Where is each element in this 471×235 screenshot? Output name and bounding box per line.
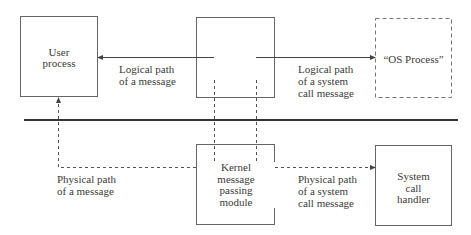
physical-message-path <box>59 98 215 168</box>
os-process-label: “OS Process” <box>375 54 452 65</box>
diagram-canvas: User process “OS Process” Kernel message… <box>0 0 471 235</box>
logical-syscall-label: Logical path of a system call message <box>298 63 354 99</box>
kernel-module-label: Kernel message passing module <box>197 162 275 208</box>
user-process-label: User process <box>20 47 98 69</box>
physical-syscall-label: Physical path of a system call message <box>298 173 357 209</box>
logical-message-label: Logical path of a message <box>119 63 176 87</box>
system-call-handler-label: System call handler <box>375 171 452 206</box>
physical-message-label: Physical path of a message <box>57 173 116 197</box>
